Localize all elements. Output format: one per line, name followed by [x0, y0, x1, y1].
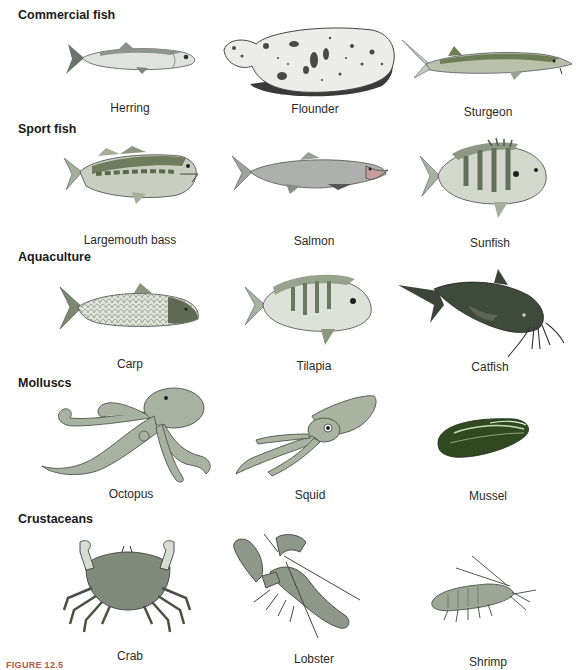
section-title-aquaculture: Aquaculture	[18, 250, 91, 264]
label-largemouth-bass: Largemouth bass	[50, 233, 210, 247]
salmon-illustration	[230, 150, 390, 202]
catfish-illustration	[398, 265, 568, 361]
section-title-sport-fish: Sport fish	[18, 122, 76, 136]
label-crab: Crab	[50, 649, 210, 663]
section-title-crustaceans: Crustaceans	[18, 512, 93, 526]
squid-illustration	[232, 392, 382, 478]
mussel-illustration	[434, 415, 534, 460]
crab-illustration	[62, 538, 192, 632]
carp-illustration	[58, 283, 203, 335]
label-herring: Herring	[50, 101, 210, 115]
shrimp-illustration	[428, 556, 538, 626]
sturgeon-illustration	[400, 38, 575, 88]
label-sunfish: Sunfish	[410, 236, 570, 250]
label-catfish: Catfish	[410, 360, 570, 374]
flounder-illustration	[222, 24, 400, 100]
label-flounder: Flounder	[235, 102, 395, 116]
largemouth-bass-illustration	[62, 146, 202, 208]
tilapia-illustration	[243, 273, 378, 345]
label-octopus: Octopus	[51, 487, 211, 501]
lobster-illustration	[230, 532, 380, 642]
label-sturgeon: Sturgeon	[408, 105, 568, 119]
section-title-commercial-fish: Commercial fish	[18, 8, 115, 22]
label-tilapia: Tilapia	[234, 359, 394, 373]
label-shrimp: Shrimp	[408, 655, 568, 669]
herring-illustration	[60, 38, 200, 80]
label-carp: Carp	[50, 357, 210, 371]
figure-caption: FIGURE 12.5	[6, 660, 63, 670]
octopus-illustration	[34, 386, 224, 486]
sunfish-illustration	[418, 140, 558, 220]
label-salmon: Salmon	[234, 234, 394, 248]
label-mussel: Mussel	[408, 489, 568, 503]
label-lobster: Lobster	[234, 652, 394, 666]
label-squid: Squid	[230, 488, 390, 502]
